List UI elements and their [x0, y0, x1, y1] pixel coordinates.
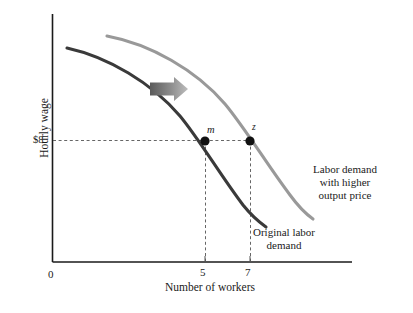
x-axis-tick-label-7: 7	[245, 266, 251, 279]
original-demand-curve	[67, 48, 266, 227]
labor-demand-chart: Hourly wage Number of workers $8 0 5 7 m…	[0, 0, 413, 313]
y-axis-title: Hourly wage	[38, 83, 52, 173]
y-axis-tick-label-8: $8	[33, 134, 44, 146]
x-axis-tick-label-5: 5	[200, 266, 206, 279]
point-label-m: m	[207, 124, 215, 136]
chart-canvas	[0, 0, 413, 313]
point-marker-m	[200, 136, 209, 145]
shifted-demand-curve-label: Labor demand with higher output price	[289, 163, 401, 202]
original-demand-curve-label: Original labor demand	[232, 226, 336, 252]
point-marker-z	[245, 136, 254, 145]
point-label-z: z	[252, 122, 256, 133]
x-axis-title: Number of workers	[120, 281, 300, 295]
shift-arrow-icon	[150, 77, 188, 101]
origin-tick-label: 0	[48, 268, 54, 281]
